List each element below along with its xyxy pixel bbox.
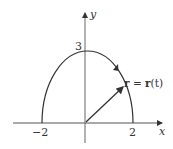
vector-function-diagram: y x 3 −2 2 r = r(t): [0, 0, 173, 149]
vector-label: r = r(t): [124, 77, 163, 89]
tick-label-x-neg2: −2: [32, 126, 48, 139]
position-vector: [86, 87, 123, 122]
y-axis-label: y: [89, 8, 97, 21]
tick-label-x-2: 2: [129, 126, 136, 139]
tick-label-y-3: 3: [75, 40, 82, 53]
x-axis-label: x: [159, 125, 166, 138]
ellipse-curve: [42, 51, 133, 123]
